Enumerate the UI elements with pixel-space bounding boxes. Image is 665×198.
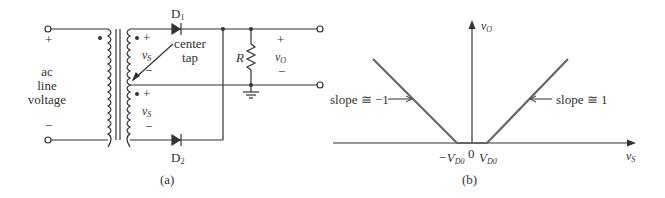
d1-label: D1: [171, 6, 184, 22]
sec-top-label: vS: [142, 48, 151, 63]
neg-threshold-label: −VD0: [438, 150, 465, 166]
source-label-3: voltage: [28, 92, 66, 107]
caption-b: (b): [462, 172, 477, 187]
sec-bot-label: vS: [142, 104, 151, 119]
sec-bot-minus: −: [145, 119, 152, 134]
center-tap-2: tap: [182, 50, 198, 65]
sec-top-minus: −: [145, 63, 152, 78]
center-tap-1: center: [174, 36, 206, 51]
x-axis-label: vS: [626, 149, 635, 164]
resistor-label: R: [235, 50, 244, 65]
source-label-2: line: [37, 78, 57, 93]
diode-d2-icon: [172, 134, 181, 146]
source-minus: −: [45, 118, 52, 133]
sec-top-plus: +: [143, 30, 150, 45]
pos-threshold-label: VD0: [479, 150, 497, 166]
y-axis-label: vO: [481, 19, 492, 34]
sec-bot-plus: +: [143, 86, 150, 101]
source-plus: +: [45, 32, 52, 47]
rectifier-figure: + − ac line voltage + vS − + vS − center…: [0, 0, 665, 198]
origin-label: 0: [468, 146, 475, 161]
source-label-1: ac: [41, 64, 53, 79]
left-slope-annotation: slope ≅ −1: [330, 92, 389, 107]
out-label: vO: [275, 50, 286, 65]
plot-b: [333, 20, 636, 147]
d2-label: D2: [171, 150, 184, 166]
right-slope-annotation: slope ≅ 1: [556, 92, 607, 107]
diode-d1-icon: [172, 23, 181, 35]
out-plus: +: [277, 32, 284, 47]
caption-a: (a): [160, 172, 174, 187]
out-minus: −: [278, 64, 285, 79]
